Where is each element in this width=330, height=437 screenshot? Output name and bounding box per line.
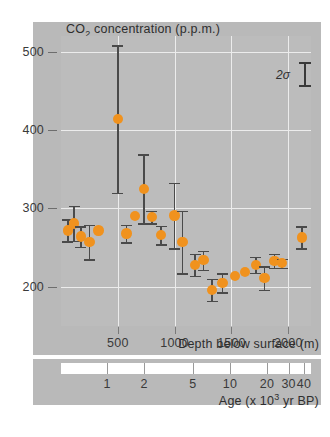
chart-title-post: concentration (p.p.m.): [90, 22, 220, 36]
age-axis-tick-mark: [304, 363, 305, 374]
error-bar-cap: [112, 45, 123, 46]
y-axis-tick-mark: [48, 287, 57, 288]
error-bar-cap: [207, 279, 218, 280]
data-point: [130, 211, 140, 221]
y-axis-tick-label: 500: [4, 45, 44, 59]
error-bar-cap: [146, 223, 157, 224]
error-bar-cap: [259, 290, 270, 291]
gridline-vertical: [175, 36, 176, 326]
error-bar-cap: [217, 273, 228, 274]
error-bar-cap: [138, 154, 149, 155]
error-bar-cap: [84, 259, 95, 260]
error-bar-cap: [198, 251, 209, 252]
error-bar-cap: [250, 257, 261, 258]
data-point: [139, 184, 149, 194]
age-axis-tick-mark: [107, 363, 108, 374]
plot-area: [61, 36, 311, 326]
data-point: [207, 285, 217, 295]
error-bar-cap: [177, 273, 188, 274]
age-axis-tick-label: 1: [103, 377, 110, 391]
age-axis-tick-mark: [144, 363, 145, 374]
data-point: [230, 271, 240, 281]
error-bar-cap: [207, 301, 218, 302]
y-axis-tick-label: 300: [4, 201, 44, 215]
x-axis-tick-mark: [175, 327, 176, 334]
age-axis-tick-label: 10: [223, 377, 237, 391]
x-axis-age-label: Age (x 103 yr BP): [219, 392, 319, 408]
error-bar-cap: [177, 211, 188, 212]
y-axis-tick-mark: [48, 130, 57, 131]
age-axis-tick-label: 2: [140, 377, 147, 391]
age-axis-tick-label: 5: [189, 377, 196, 391]
data-point: [217, 278, 227, 288]
data-point: [297, 232, 307, 242]
error-bar-cap: [217, 292, 228, 293]
error-bar-cap: [75, 247, 86, 248]
error-bar-cap: [75, 226, 86, 227]
x-axis-depth-label: Depth below surface (m): [178, 337, 319, 351]
data-point: [113, 114, 123, 124]
age-axis-scale-bar: [61, 363, 311, 374]
age-axis-tick-mark: [289, 363, 290, 374]
data-point: [147, 212, 157, 222]
age-axis-tick-mark: [193, 363, 194, 374]
sigma-legend-label: 2σ: [276, 68, 290, 82]
error-bar-cap: [296, 226, 307, 227]
data-point: [240, 267, 250, 277]
age-label-post: yr BP): [279, 394, 319, 408]
age-axis-tick-label: 30: [281, 377, 295, 391]
error-bar-cap: [156, 244, 167, 245]
gridline-horizontal: [61, 287, 311, 288]
data-point: [156, 230, 166, 240]
data-point: [84, 237, 94, 247]
gridline-vertical: [231, 36, 232, 326]
age-axis-tick-mark: [230, 363, 231, 374]
error-bar-cap: [121, 225, 132, 226]
age-axis-tick-mark: [267, 363, 268, 374]
sigma-legend-errorbar-icon: [299, 62, 311, 87]
age-axis-tick-label: 20: [260, 377, 274, 391]
data-point: [121, 228, 131, 238]
data-point: [198, 255, 208, 265]
gridline-horizontal: [61, 130, 311, 131]
data-point: [259, 273, 269, 283]
x-axis-tick-mark: [231, 327, 232, 334]
gridline-horizontal: [61, 52, 311, 53]
y-axis-tick-label: 200: [4, 280, 44, 294]
error-bar-cap: [112, 193, 123, 194]
error-bar-cap: [198, 270, 209, 271]
data-point: [93, 225, 103, 235]
co2-depth-chart-figure: CO2 concentration (p.p.m.) 200300400500 …: [0, 0, 330, 437]
gridline-horizontal: [61, 208, 311, 209]
error-bar-cap: [190, 276, 201, 277]
error-bar-cap: [169, 183, 180, 184]
y-axis-tick-mark: [48, 52, 57, 53]
error-bar-cap: [121, 242, 132, 243]
x-axis-tick-label: 500: [107, 336, 128, 350]
data-point: [177, 237, 187, 247]
error-bar-cap: [169, 248, 180, 249]
data-point: [251, 260, 261, 270]
age-axis-tick-label: 40: [297, 377, 311, 391]
error-bar-cap: [296, 248, 307, 249]
age-label-pre: Age (x 10: [219, 394, 274, 408]
data-point: [277, 258, 287, 268]
error-bar-cap: [69, 206, 80, 207]
error-bar-cap: [156, 226, 167, 227]
x-axis-tick-mark: [288, 327, 289, 334]
y-axis-tick-label: 400: [4, 123, 44, 137]
chart-title-pre: CO: [66, 22, 85, 36]
y-axis-tick-mark: [48, 208, 57, 209]
error-bar-cap: [277, 268, 288, 269]
x-axis-tick-mark: [118, 327, 119, 334]
